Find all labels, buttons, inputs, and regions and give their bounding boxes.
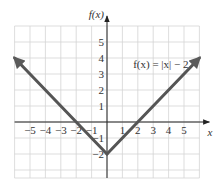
y-tick-label: 4 — [99, 52, 105, 64]
x-tick-label: 3 — [150, 124, 156, 136]
x-tick-label: −5 — [24, 124, 36, 136]
y-tick-label: 1 — [99, 100, 105, 112]
chart: −5−4−3−2−112345−2−112345 f(x) x f(x) = |… — [0, 0, 221, 183]
y-tick-label: 3 — [99, 68, 105, 80]
y-tick-label: 2 — [99, 84, 105, 96]
y-axis-label: f(x) — [89, 8, 105, 21]
x-tick-label: 4 — [166, 124, 172, 136]
y-tick-label: 5 — [99, 36, 105, 48]
x-axis-label: x — [206, 126, 212, 138]
x-tick-label: 5 — [181, 124, 187, 136]
x-tick-label: −4 — [40, 124, 52, 136]
x-tick-label: −3 — [55, 124, 67, 136]
function-annotation: f(x) = |x| − 2 — [133, 58, 188, 71]
